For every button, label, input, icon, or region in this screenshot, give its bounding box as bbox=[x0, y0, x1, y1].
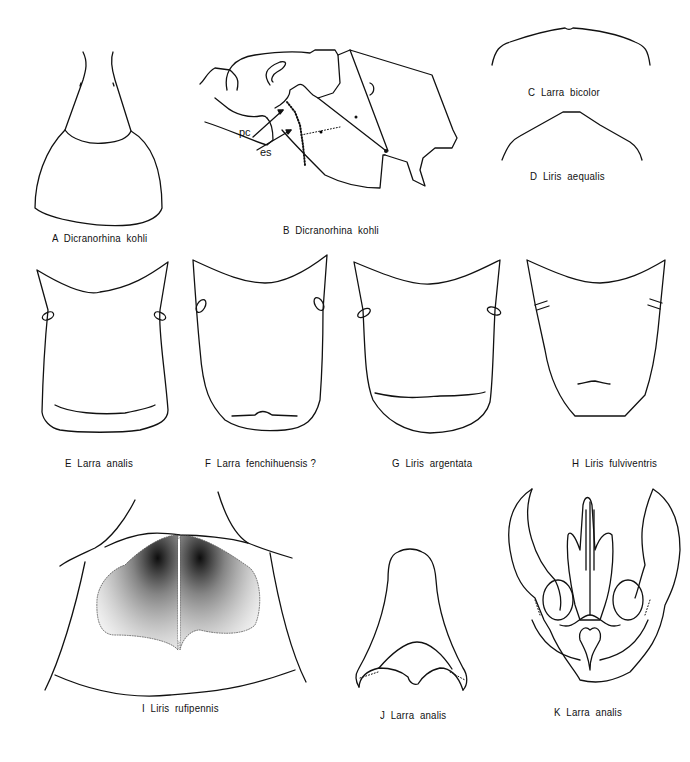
figure-f-drawing bbox=[175, 250, 345, 450]
figure-k: K Larra analis bbox=[480, 480, 690, 762]
figure-b-caption: B Dicranorhina kohli bbox=[283, 224, 379, 236]
figure-f: F Larra fenchihuensis ? bbox=[175, 250, 345, 460]
figure-f-caption: F Larra fenchihuensis ? bbox=[205, 457, 316, 469]
figure-e-caption: E Larra analis bbox=[65, 457, 133, 469]
figure-g-drawing bbox=[345, 250, 520, 450]
figure-g: G Liris argentata bbox=[345, 250, 520, 460]
figure-g-caption: G Liris argentata bbox=[392, 457, 472, 469]
label-pc: pc bbox=[239, 126, 251, 138]
figure-a-caption: A Dicranorhina kohli bbox=[52, 232, 147, 244]
figure-j: J Larra analis bbox=[330, 480, 480, 762]
figure-d-drawing bbox=[470, 120, 690, 200]
figure-e-drawing bbox=[0, 250, 175, 450]
figure-c-drawing bbox=[470, 20, 690, 90]
figure-d: D Liris aequalis bbox=[470, 120, 690, 220]
figure-i-caption: I Liris rufipennis bbox=[142, 702, 219, 714]
figure-c-caption: C Larra bicolor bbox=[528, 86, 600, 98]
label-es: es bbox=[260, 146, 272, 158]
figure-h: H Liris fulviventris bbox=[520, 250, 690, 460]
figure-h-caption: H Liris fulviventris bbox=[572, 457, 657, 469]
figure-i: I Liris rufipennis bbox=[0, 490, 330, 762]
figure-b: pc es B Dicranorhina kohli bbox=[195, 20, 475, 240]
figure-b-drawing bbox=[195, 20, 475, 230]
figure-k-caption: K Larra analis bbox=[554, 706, 622, 718]
figure-k-drawing bbox=[480, 480, 690, 710]
figure-c: C Larra bicolor bbox=[470, 20, 690, 110]
figure-h-drawing bbox=[520, 250, 690, 450]
figure-j-caption: J Larra analis bbox=[380, 709, 446, 721]
figure-j-drawing bbox=[330, 480, 480, 710]
figure-i-drawing bbox=[0, 490, 330, 730]
figure-d-caption: D Liris aequalis bbox=[530, 170, 605, 182]
figure-e: E Larra analis bbox=[0, 250, 175, 460]
